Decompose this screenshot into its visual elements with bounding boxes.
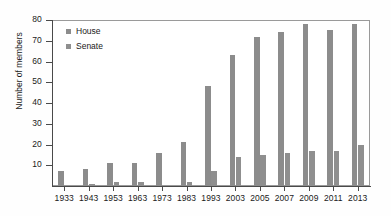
x-axis-tick	[358, 186, 359, 191]
x-axis-tick	[284, 186, 285, 191]
bar-senate	[211, 171, 217, 186]
bar-house	[205, 86, 211, 186]
bar-senate	[138, 182, 144, 186]
legend-swatch-house	[66, 29, 71, 34]
bar-house	[156, 153, 162, 186]
bar-house	[181, 142, 187, 186]
x-axis-tick-label: 2013	[340, 193, 376, 203]
bar-house	[107, 163, 113, 186]
x-axis-tick	[89, 186, 90, 191]
bar-senate	[285, 153, 291, 186]
x-axis-tick	[113, 186, 114, 191]
bar-senate	[236, 157, 242, 186]
bar-house	[254, 37, 260, 186]
bar-senate	[89, 184, 95, 186]
bar-senate	[334, 151, 340, 186]
bar-senate	[358, 145, 364, 187]
x-axis-tick	[187, 186, 188, 191]
legend-item-house: House	[66, 26, 103, 36]
y-axis-tick-label: 20	[0, 139, 42, 149]
bar-senate	[187, 182, 193, 186]
bar-house	[83, 169, 89, 186]
chart-container: 1020304050607080 Number of members 19331…	[0, 0, 391, 216]
bar-senate	[260, 155, 266, 186]
legend-label-senate: Senate	[76, 41, 103, 51]
bar-house	[278, 32, 284, 186]
legend-item-senate: Senate	[66, 41, 103, 51]
x-axis-tick	[333, 186, 334, 191]
legend-label-house: House	[76, 26, 101, 36]
bar-senate	[309, 151, 315, 186]
x-axis-tick	[64, 186, 65, 191]
bar-house	[58, 171, 64, 186]
bar-house	[230, 55, 236, 186]
y-axis-title: Number of members	[14, 11, 24, 131]
x-axis-tick	[162, 186, 163, 191]
x-axis-tick	[260, 186, 261, 191]
legend-swatch-senate	[66, 44, 71, 49]
x-axis-tick	[235, 186, 236, 191]
bar-house	[352, 24, 358, 186]
bar-senate	[114, 182, 120, 186]
bar-house	[132, 163, 138, 186]
bar-house	[303, 24, 309, 186]
x-axis-tick	[138, 186, 139, 191]
y-axis-tick-label: 10	[0, 159, 42, 169]
x-axis-tick	[211, 186, 212, 191]
bar-house	[327, 30, 333, 186]
x-axis-tick	[309, 186, 310, 191]
chart-legend: House Senate	[66, 26, 103, 56]
